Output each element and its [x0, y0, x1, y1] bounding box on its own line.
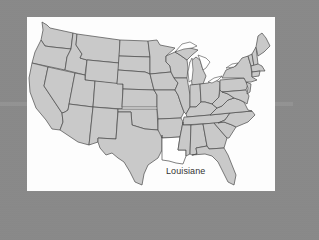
louisiana-label: Louisiane — [166, 166, 205, 176]
us-map — [0, 0, 293, 207]
state-kansas — [122, 89, 157, 107]
state-connecticut — [252, 71, 260, 77]
state-maine — [256, 33, 270, 56]
state-montana — [76, 34, 120, 63]
state-washington — [41, 22, 73, 49]
state-colorado — [93, 81, 123, 109]
state-north-dakota — [119, 40, 150, 57]
lake-michigan — [188, 58, 193, 82]
state-massachusetts — [251, 64, 265, 72]
